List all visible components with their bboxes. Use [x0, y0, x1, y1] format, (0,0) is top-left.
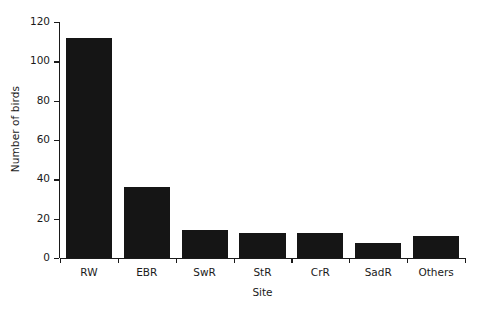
bar-chart-figure: Number of birds 020406080100120 RWEBRSwR…: [0, 0, 489, 309]
bar-crr: [297, 233, 343, 258]
x-axis-category-label: SadR: [349, 266, 407, 278]
x-axis-title: Site: [60, 286, 465, 298]
y-axis-tick-label: 60: [37, 133, 50, 145]
y-axis-tick-label: 100: [30, 54, 50, 66]
y-axis-tick-label: 80: [37, 94, 50, 106]
y-axis-tick-label: 120: [30, 15, 50, 27]
x-axis-tick: [118, 258, 119, 263]
y-axis-title-text: Number of birds: [9, 86, 21, 172]
y-axis-tick-label: 20: [37, 212, 50, 224]
y-axis-tick: 0: [54, 258, 59, 259]
x-axis-category-label: StR: [234, 266, 292, 278]
x-axis-tick: [407, 258, 408, 263]
y-axis-tick-label: 40: [37, 172, 50, 184]
y-axis-tick: 120: [54, 22, 59, 23]
y-axis-tick: 60: [54, 140, 59, 141]
x-axis-category-label: Others: [407, 266, 465, 278]
bar-str: [239, 233, 285, 258]
y-axis-title: Number of birds: [4, 0, 26, 258]
y-axis-tick: 20: [54, 219, 59, 220]
x-axis-category-label: EBR: [118, 266, 176, 278]
x-axis-tick: [60, 258, 61, 263]
x-axis-category-label: SwR: [176, 266, 234, 278]
bar-swr: [182, 230, 228, 258]
x-axis-tick: [234, 258, 235, 263]
bar-ebr: [124, 187, 170, 258]
y-axis-tick: 80: [54, 101, 59, 102]
x-axis-tick: [349, 258, 350, 263]
x-axis-category-label: CrR: [291, 266, 349, 278]
x-axis-category-label: RW: [60, 266, 118, 278]
y-axis-tick: 40: [54, 179, 59, 180]
bar-rw: [66, 38, 112, 258]
plot-area: 020406080100120 RWEBRSwRStRCrRSadROthers: [60, 18, 465, 258]
y-axis-tick: 100: [54, 61, 59, 62]
bar-sadr: [355, 243, 401, 258]
x-axis-tick: [291, 258, 292, 263]
bar-others: [413, 236, 459, 258]
x-axis-line: [60, 258, 465, 259]
x-axis-tick: [465, 258, 466, 263]
x-axis-tick: [176, 258, 177, 263]
y-axis-tick-label: 0: [43, 251, 50, 263]
y-axis-line: [59, 22, 60, 258]
